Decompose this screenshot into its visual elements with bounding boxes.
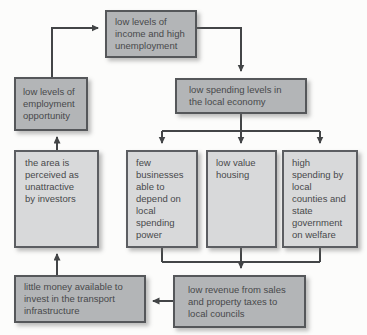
- node-welfare: high spending by local counties and stat…: [282, 150, 358, 248]
- node-revenue: low revenue from sales and property taxe…: [173, 275, 306, 328]
- node-income-label: low levels of income and high unemployme…: [115, 16, 185, 52]
- node-revenue-label: low revenue from sales and property taxe…: [188, 284, 286, 320]
- node-area-label: the area is perceived as unattractive by…: [25, 157, 79, 205]
- node-transport-label: little money available to invest in the …: [24, 281, 123, 317]
- node-income: low levels of income and high unemployme…: [105, 10, 197, 58]
- node-housing-label: low value housing: [216, 157, 256, 181]
- node-employment: low levels of employment opportunity: [14, 77, 88, 131]
- node-spending: low spending levels in the local economy: [175, 78, 307, 114]
- node-few-businesses: few businesses able to depend on local s…: [126, 150, 198, 248]
- node-area: the area is perceived as unattractive by…: [14, 150, 99, 248]
- node-housing: low value housing: [206, 150, 277, 248]
- node-few-businesses-label: few businesses able to depend on local s…: [136, 157, 184, 241]
- node-employment-label: low levels of employment opportunity: [23, 86, 75, 122]
- node-welfare-label: high spending by local counties and stat…: [292, 157, 346, 241]
- node-transport: little money available to invest in the …: [14, 275, 146, 323]
- flow-diagram: low levels of income and high unemployme…: [0, 0, 367, 335]
- arrow-employment-to-income: [52, 28, 98, 77]
- arrow-income-to-spending: [197, 28, 241, 71]
- node-spending-label: low spending levels in the local economy: [189, 84, 281, 108]
